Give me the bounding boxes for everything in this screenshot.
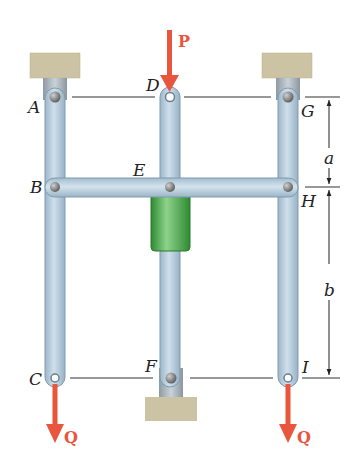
dimension-a: a [324, 100, 334, 184]
pin-D [166, 93, 175, 102]
force-Q-left-label: Q [64, 428, 78, 447]
label-B: B [29, 177, 43, 197]
reference-lines [70, 97, 340, 378]
label-G: G [301, 101, 315, 121]
force-P-arrow: P [160, 30, 190, 92]
pin-A [50, 92, 61, 103]
force-Q-left-arrow: Q [46, 384, 78, 447]
label-D: D [145, 75, 160, 95]
force-Q-right-arrow: Q [279, 384, 311, 447]
link-GHI [278, 88, 298, 387]
linkage-diagram: a b [0, 0, 357, 465]
dimension-b: b [324, 190, 335, 375]
label-A: A [26, 97, 40, 117]
pin-E [165, 182, 175, 192]
label-C: C [29, 369, 42, 389]
label-H: H [300, 191, 317, 211]
dimension-b-label: b [324, 280, 335, 300]
dimension-a-label: a [324, 148, 334, 168]
label-I: I [301, 357, 309, 377]
force-P-label: P [178, 32, 190, 51]
label-F: F [144, 356, 158, 376]
pin-B [50, 182, 60, 192]
pin-F [166, 373, 177, 384]
pin-C [51, 374, 59, 382]
pin-H [283, 182, 293, 192]
pin-I [284, 374, 292, 382]
link-ABC [45, 88, 65, 387]
label-E: E [132, 160, 146, 180]
force-Q-right-label: Q [297, 428, 311, 447]
pin-G [283, 92, 294, 103]
